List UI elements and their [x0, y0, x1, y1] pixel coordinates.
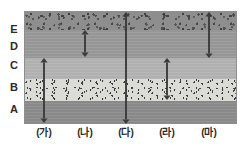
arrow-label-ma: (마)	[189, 128, 229, 138]
arrow-label-ra: (라)	[147, 128, 187, 138]
measure-arrow-na	[80, 30, 91, 57]
strata-diagram: E D C B A (가) (나) (다) (라) (마)	[0, 0, 245, 148]
layer-label-D: D	[6, 41, 22, 52]
arrow-label-na: (나)	[65, 128, 105, 138]
layer-label-C: C	[6, 60, 22, 71]
layer-label-E: E	[6, 24, 22, 35]
measure-arrow-ga	[39, 58, 50, 123]
measure-arrow-ma	[204, 12, 215, 58]
measure-arrow-da	[121, 12, 132, 124]
arrow-label-ga: (가)	[24, 128, 64, 138]
layer-label-A: A	[6, 104, 22, 115]
measure-arrow-ra	[162, 58, 173, 100]
arrow-label-da: (다)	[106, 128, 146, 138]
layer-label-B: B	[6, 82, 22, 93]
